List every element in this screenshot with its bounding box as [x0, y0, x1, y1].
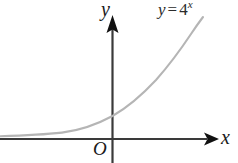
exponential-function-figure: y x O y=4x [0, 0, 238, 163]
curve-equation-label: y=4x [158, 1, 193, 18]
exponential-curve [0, 17, 203, 136]
origin-label: O [93, 139, 107, 158]
equation-lhs: y [158, 0, 166, 19]
equation-equals-sign: = [168, 0, 178, 19]
equation-base: 4 [179, 0, 188, 19]
graph-canvas [0, 0, 238, 163]
y-axis-label: y [101, 0, 110, 19]
x-axis-label: x [221, 127, 230, 147]
equation-exponent: x [188, 0, 193, 10]
